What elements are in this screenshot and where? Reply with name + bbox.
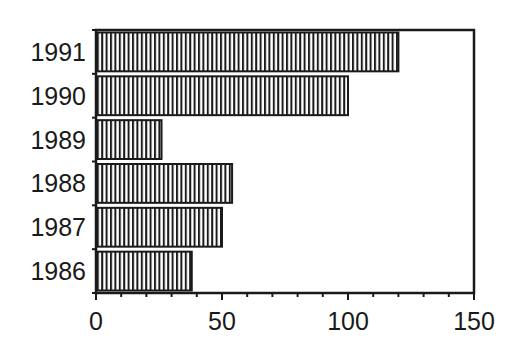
bar-1987 <box>96 208 222 247</box>
x-tick-label: 0 <box>89 307 103 335</box>
bars-group <box>96 33 398 291</box>
bar-chart: 199119901989198819871986 050100150 <box>0 0 532 353</box>
x-tick-label: 100 <box>327 307 369 335</box>
bar-1989 <box>96 120 162 159</box>
bar-1988 <box>96 164 232 203</box>
x-tick-label: 50 <box>208 307 236 335</box>
bar-1986 <box>96 252 192 291</box>
y-tick-label: 1989 <box>30 126 86 154</box>
y-tick-label: 1986 <box>30 257 86 285</box>
y-tick-label: 1987 <box>30 213 86 241</box>
bar-1990 <box>96 76 348 115</box>
y-tick-label: 1988 <box>30 169 86 197</box>
bar-1991 <box>96 33 398 72</box>
y-tick-label: 1990 <box>30 82 86 110</box>
y-axis: 199119901989198819871986 <box>30 30 96 293</box>
y-tick-label: 1991 <box>30 38 86 66</box>
x-axis: 050100150 <box>89 293 495 335</box>
x-tick-label: 150 <box>453 307 495 335</box>
